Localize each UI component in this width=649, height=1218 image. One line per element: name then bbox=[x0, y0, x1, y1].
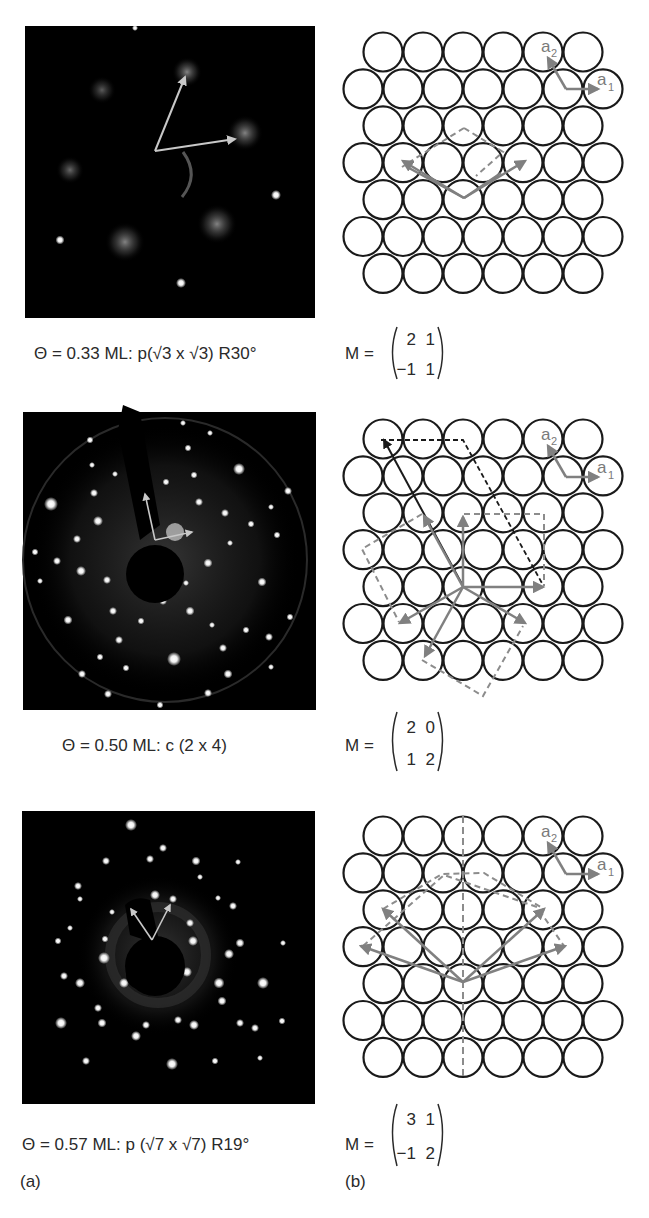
a1-label: a bbox=[597, 855, 607, 874]
atom-circle bbox=[504, 604, 543, 643]
atom-circle bbox=[464, 69, 503, 108]
atom-circle bbox=[504, 1001, 543, 1040]
diffraction-spot bbox=[236, 1019, 244, 1027]
diffraction-spot bbox=[109, 909, 115, 915]
atom-circle bbox=[424, 927, 463, 966]
a1-label: a bbox=[597, 458, 607, 477]
atom-circle bbox=[484, 493, 523, 532]
diffraction-spot bbox=[224, 670, 233, 679]
svg-text:1: 1 bbox=[608, 469, 614, 481]
svg-text:2: 2 bbox=[426, 1144, 435, 1163]
a1-label: a bbox=[597, 70, 607, 89]
diffraction-spot bbox=[55, 938, 62, 945]
svg-text:1: 1 bbox=[608, 866, 614, 878]
atom-circle bbox=[344, 217, 383, 256]
hex-lattice-1 bbox=[344, 33, 623, 293]
atom-circle bbox=[564, 964, 603, 1003]
diffraction-spot bbox=[180, 420, 186, 426]
diffraction-spot bbox=[191, 472, 198, 479]
leed-pattern-1 bbox=[25, 25, 315, 318]
atom-circle bbox=[584, 604, 623, 643]
atom-circle bbox=[384, 1001, 423, 1040]
diffraction-spot bbox=[248, 521, 255, 528]
atom-circle bbox=[364, 817, 403, 856]
atom-circle bbox=[384, 530, 423, 569]
diffraction-spot bbox=[235, 859, 241, 865]
hex-lattice-2 bbox=[344, 420, 623, 680]
atom-circle bbox=[544, 217, 583, 256]
diffraction-spot bbox=[87, 437, 94, 444]
atom-circle bbox=[344, 143, 383, 182]
coverage-caption-2: Θ = 0.50 ML: c (2 x 4) bbox=[62, 736, 227, 755]
atom-circle bbox=[524, 641, 563, 680]
atom-circle bbox=[544, 604, 583, 643]
atom-circle bbox=[584, 530, 623, 569]
diffraction-spot bbox=[82, 1057, 90, 1065]
matrix-label: M = bbox=[345, 736, 374, 755]
svg-text:1: 1 bbox=[426, 360, 435, 379]
diffraction-spot bbox=[32, 549, 39, 556]
atom-circle bbox=[564, 641, 603, 680]
atom-circle bbox=[444, 33, 483, 72]
atom-circle bbox=[444, 254, 483, 293]
atom-circle bbox=[464, 604, 503, 643]
diffraction-spot bbox=[197, 874, 203, 880]
atom-circle bbox=[544, 1001, 583, 1040]
diffraction-spot bbox=[257, 1055, 263, 1061]
diffraction-spot bbox=[214, 978, 225, 989]
atom-circle bbox=[424, 1001, 463, 1040]
atom-circle bbox=[404, 567, 443, 606]
diffraction-spot bbox=[207, 430, 213, 436]
diffraction-spot bbox=[188, 936, 198, 946]
diffraction-spot bbox=[233, 463, 245, 475]
diffraction-spot bbox=[76, 566, 86, 576]
svg-text:−1: −1 bbox=[397, 1144, 416, 1163]
atom-circle bbox=[544, 530, 583, 569]
diffraction-spot bbox=[236, 939, 245, 948]
diffraction-spot bbox=[189, 1020, 199, 1030]
diffraction-spot bbox=[268, 504, 274, 510]
row-3: a 2 a 1 Θ = 0.57 ML: p (√7 x √7) R19° M … bbox=[22, 811, 623, 1166]
diffraction-spot bbox=[131, 1031, 141, 1041]
svg-text:1: 1 bbox=[407, 750, 416, 769]
atom-circle bbox=[564, 1038, 603, 1077]
svg-text:2: 2 bbox=[426, 750, 435, 769]
atom-circle bbox=[444, 420, 483, 459]
diffraction-spot bbox=[251, 1024, 259, 1032]
diffraction-spot bbox=[227, 540, 233, 546]
diffraction-spot bbox=[257, 977, 269, 989]
atom-circle bbox=[584, 143, 623, 182]
diffraction-spot bbox=[212, 1058, 219, 1065]
atom-circle bbox=[484, 964, 523, 1003]
a2-label: a bbox=[541, 425, 551, 444]
atom-circle bbox=[484, 817, 523, 856]
diffraction-spot bbox=[73, 535, 81, 543]
diffraction-spot bbox=[268, 664, 274, 670]
atom-circle bbox=[584, 927, 623, 966]
matrix-3: M = 3 1 −1 2 bbox=[345, 1104, 443, 1166]
diffraction-spot bbox=[90, 489, 98, 497]
atom-circle bbox=[504, 530, 543, 569]
svg-text:2: 2 bbox=[407, 718, 416, 737]
svg-text:0: 0 bbox=[426, 718, 435, 737]
diffraction-spot bbox=[93, 516, 103, 526]
diffraction-spot bbox=[280, 940, 286, 946]
diffraction-spot bbox=[284, 487, 292, 495]
diffraction-spot bbox=[78, 670, 86, 678]
svg-text:2: 2 bbox=[551, 832, 557, 844]
atom-circle bbox=[564, 106, 603, 145]
atom-circle bbox=[524, 106, 563, 145]
diffraction-spot bbox=[94, 1004, 102, 1012]
diffraction-spot bbox=[138, 618, 145, 625]
diffraction-spot bbox=[109, 607, 117, 615]
diffraction-spot bbox=[183, 580, 189, 586]
atom-circle bbox=[524, 1038, 563, 1077]
atom-circle bbox=[564, 890, 603, 929]
atom-circle bbox=[424, 69, 463, 108]
atom-circle bbox=[444, 641, 483, 680]
diffraction-spot bbox=[55, 1017, 67, 1029]
atom-circle bbox=[484, 420, 523, 459]
diffraction-spot bbox=[67, 925, 73, 931]
diffraction-spot bbox=[75, 978, 85, 988]
figure-canvas: a 2 a 1 Θ = 0.33 ML: p(√3 x √3) R30° M =… bbox=[0, 0, 649, 1218]
